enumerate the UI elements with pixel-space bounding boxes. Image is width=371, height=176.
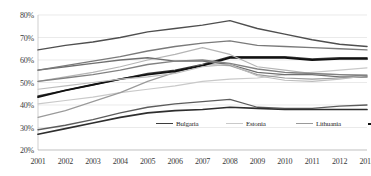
legend-line-swatch <box>226 123 243 124</box>
y-tick-label: 30% <box>20 123 34 132</box>
x-tick-label: 2006 <box>167 157 182 166</box>
y-tick-label: 70% <box>20 33 34 42</box>
y-tick-label: 40% <box>20 101 34 110</box>
x-tick-label: 2003 <box>85 157 100 166</box>
legend-item-estonia[interactable]: Estonia <box>226 119 296 128</box>
x-tick-label: 2010 <box>277 157 292 166</box>
x-tick-label: 2008 <box>222 157 237 166</box>
x-tick-label: 2001 <box>30 157 45 166</box>
series-line-czech-rep <box>38 60 367 81</box>
x-tick-label: 2012 <box>332 157 347 166</box>
y-tick-label: 60% <box>20 56 34 65</box>
legend-line-swatch <box>296 123 313 124</box>
x-axis: 2001200220032004200520062007200820092010… <box>38 157 367 173</box>
x-tick-label: 2004 <box>113 157 128 166</box>
x-tick-label: 2007 <box>195 157 210 166</box>
line-chart: 20%30%40%50%60%70%80% 200120022003200420… <box>0 0 371 176</box>
legend-item-lithuania[interactable]: Lithuania <box>296 119 368 128</box>
x-tick-label: 2005 <box>140 157 155 166</box>
legend-label: Estonia <box>246 120 266 128</box>
y-tick-label: 20% <box>20 146 34 155</box>
legend-line-swatch <box>156 123 173 124</box>
series-line-slovenia <box>38 21 367 50</box>
legend-item-bulgaria[interactable]: Bulgaria <box>156 119 226 128</box>
y-axis: 20%30%40%50%60%70%80% <box>0 0 34 176</box>
legend-label: Bulgaria <box>176 120 199 128</box>
y-tick-label: 80% <box>20 11 34 20</box>
x-tick-label: 2013 <box>359 157 371 166</box>
y-tick-label: 50% <box>20 78 34 87</box>
chart-legend: BulgariaEstoniaLithuaniaSlovakiaCroatiaH… <box>156 119 368 157</box>
x-tick-label: 2009 <box>250 157 265 166</box>
x-tick-label: 2011 <box>305 157 320 166</box>
legend-label: Lithuania <box>316 120 341 128</box>
x-tick-label: 2002 <box>58 157 73 166</box>
